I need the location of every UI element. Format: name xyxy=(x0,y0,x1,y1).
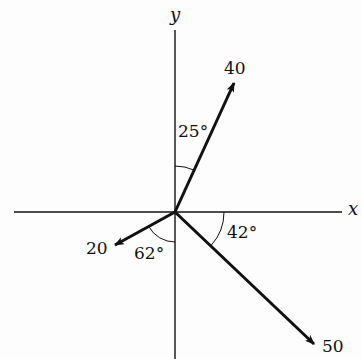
angle-62-label: 62° xyxy=(134,245,164,262)
angle-arc-62 xyxy=(149,226,175,242)
vector-50-label: 50 xyxy=(322,338,344,355)
vector-20-arrow xyxy=(115,212,175,245)
angle-arc-25 xyxy=(175,166,195,170)
angle-25-label: 25° xyxy=(178,123,208,140)
vector-20-label: 20 xyxy=(86,240,108,257)
vector-diagram: y x 40 25° 50 42° 20 62° xyxy=(0,0,362,359)
angle-42-label: 42° xyxy=(227,224,257,241)
angle-arc-42 xyxy=(211,212,224,246)
x-axis-label: x xyxy=(348,200,358,218)
y-axis-label: y xyxy=(170,6,180,24)
vector-40-arrow xyxy=(175,83,234,212)
vector-40-label: 40 xyxy=(224,60,246,77)
diagram-graphics xyxy=(0,0,362,359)
